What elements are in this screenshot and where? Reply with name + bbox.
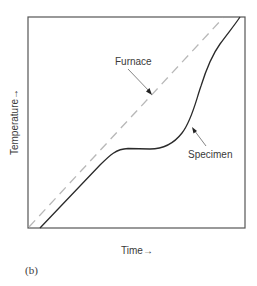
x-axis-label: Time→ bbox=[121, 245, 153, 256]
y-axis-label: Temperature→ bbox=[9, 89, 20, 155]
panel-label: (b) bbox=[25, 264, 38, 277]
specimen-leader-line bbox=[194, 130, 206, 146]
specimen-annotation: Specimen bbox=[188, 127, 232, 160]
heating-curve-diagram: Furnace Specimen Temperature→ Time→ (b) bbox=[0, 0, 257, 286]
furnace-label: Furnace bbox=[115, 56, 152, 67]
furnace-line bbox=[29, 18, 223, 227]
furnace-leader-line bbox=[128, 69, 150, 92]
specimen-curve bbox=[40, 17, 240, 228]
specimen-label: Specimen bbox=[188, 149, 232, 160]
furnace-annotation: Furnace bbox=[115, 56, 152, 95]
plot-frame bbox=[28, 17, 245, 228]
